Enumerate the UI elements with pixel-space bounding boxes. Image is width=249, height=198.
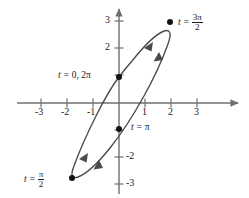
parametric-plot-figure: -3 -2 -1 1 2 3 3 2 -2 -3 t = 3π 2 t = 0,… [0,0,249,198]
annotation-t-pi-value: π [145,122,150,132]
annotation-t-pi-2-denominator: 2 [38,179,45,189]
annotation-t-pi-2-fraction: π 2 [38,170,45,190]
annotation-t-3pi-2-denominator: 2 [192,22,203,32]
x-tick-label--2: -2 [61,107,69,117]
annotation-t-0-2pi: t = 0, 2π [58,71,91,81]
dot-t-pi [116,126,122,132]
axis-lines [17,9,238,194]
annotation-t-pi-prefix: t = [131,122,142,132]
dot-t-0-2pi [116,74,122,80]
dot-t-pi-2 [69,175,75,181]
x-tick-label-2: 2 [168,107,173,117]
y-tick-label-3: 3 [105,15,110,25]
y-tick-label--2: -2 [126,151,134,161]
arrow-marker-upper-right [154,52,164,62]
y-tick-label-2: 2 [105,42,110,52]
annotation-t-0-2pi-value: 0, 2π [72,70,91,80]
annotation-t-0-2pi-prefix: t = [58,70,69,80]
arrow-marker-upper-left [144,42,153,52]
plot-canvas [0,0,249,198]
dot-t-3pi-2 [167,19,173,25]
annotation-t-pi-2-prefix: t = [24,174,35,184]
x-tick-label-3: 3 [194,107,199,117]
annotation-t-3pi-2: t = 3π 2 [178,13,203,33]
annotation-t-3pi-2-numerator: 3π [192,13,203,22]
y-tick-label--3: -3 [126,178,134,188]
annotation-t-3pi-2-fraction: 3π 2 [192,13,203,33]
annotation-t-pi: t = π [131,123,150,133]
arrow-marker-lower-left [79,153,88,163]
annotation-t-pi-2: t = π 2 [24,170,44,190]
annotation-t-pi-2-numerator: π [38,170,45,179]
annotation-t-3pi-2-prefix: t = [178,17,189,27]
x-tick-label-1: 1 [142,107,147,117]
x-tick-label--1: -1 [87,107,95,117]
x-tick-label--3: -3 [35,107,43,117]
